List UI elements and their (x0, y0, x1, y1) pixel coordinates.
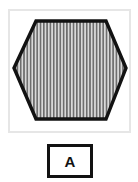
hexagon-shape-svg (10, 11, 129, 131)
label-box: A (47, 144, 93, 178)
shape-panel (8, 9, 131, 133)
label-letter: A (65, 154, 76, 169)
figure-root: A (0, 0, 138, 182)
